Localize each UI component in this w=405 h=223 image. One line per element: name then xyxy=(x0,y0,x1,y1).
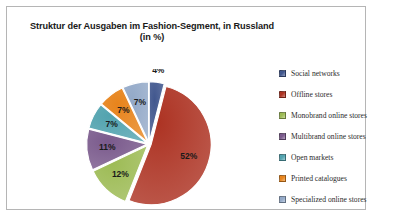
legend-item[interactable]: Social networks xyxy=(279,63,371,84)
legend-item[interactable]: Multibrand online stores xyxy=(279,126,371,147)
chart-frame: Struktur der Ausgaben im Fashion-Segment… xyxy=(6,6,366,210)
legend-color-swatch xyxy=(279,133,286,140)
legend-item[interactable]: Specialized online stores xyxy=(279,189,371,210)
pie-slice-label: 7% xyxy=(106,119,119,129)
legend-color-swatch xyxy=(279,175,286,182)
legend-item[interactable]: Monobrand online stores xyxy=(279,105,371,126)
legend-color-swatch xyxy=(279,154,286,161)
pie-slice-label: 11% xyxy=(99,142,116,152)
legend-color-swatch xyxy=(279,91,286,98)
legend-item-label: Monobrand online stores xyxy=(291,111,367,120)
pie-slice-label: 52% xyxy=(180,151,197,161)
pie-slice-label: 7% xyxy=(134,97,147,107)
legend-color-swatch xyxy=(279,112,286,119)
legend-item[interactable]: Offline stores xyxy=(279,84,371,105)
pie-chart: 4%52%12%11%7%7%7% xyxy=(67,69,227,214)
chart-title: Struktur der Ausgaben im Fashion-Segment… xyxy=(17,21,287,43)
legend-item-label: Social networks xyxy=(291,69,340,78)
legend-color-swatch xyxy=(279,196,286,203)
chart-title-main: Struktur der Ausgaben im Fashion-Segment… xyxy=(30,21,274,31)
pie-chart-svg: 4%52%12%11%7%7%7% xyxy=(67,69,227,214)
pie-slice-label: 4% xyxy=(152,69,165,75)
legend-item-label: Multibrand online stores xyxy=(291,132,366,141)
chart-title-subtitle: (in %) xyxy=(17,32,287,43)
legend-color-swatch xyxy=(279,70,286,77)
chart-legend: Social networksOffline storesMonobrand o… xyxy=(279,63,371,210)
chart-screenshot: Struktur der Ausgaben im Fashion-Segment… xyxy=(0,0,405,223)
pie-slice-label: 7% xyxy=(117,105,130,115)
legend-item[interactable]: Printed catalogues xyxy=(279,168,371,189)
pie-slice-label: 12% xyxy=(112,169,129,179)
legend-item-label: Offline stores xyxy=(291,90,332,99)
legend-item-label: Printed catalogues xyxy=(291,174,347,183)
legend-item-label: Specialized online stores xyxy=(291,195,367,204)
legend-item[interactable]: Open markets xyxy=(279,147,371,168)
legend-item-label: Open markets xyxy=(291,153,333,162)
